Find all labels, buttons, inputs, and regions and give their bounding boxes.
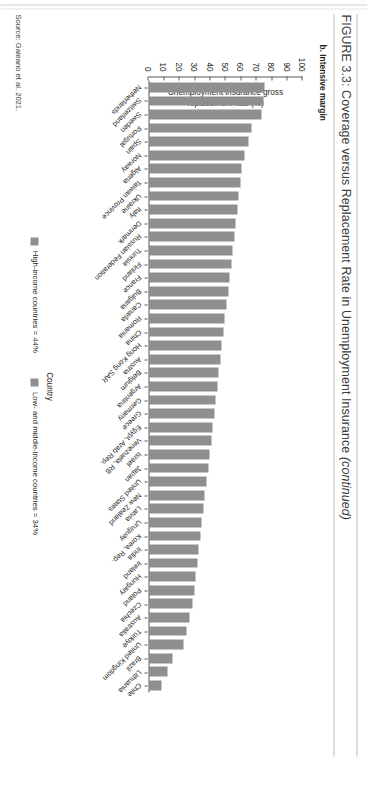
legend-swatch <box>31 378 39 386</box>
x-axis-tick <box>144 304 147 305</box>
bar <box>149 327 223 337</box>
bar-item <box>149 216 303 230</box>
bar-series <box>149 80 303 692</box>
page-edge-rule-outer <box>0 4 367 5</box>
x-axis-tick <box>144 440 147 441</box>
x-axis-tick <box>144 576 147 577</box>
bar <box>149 626 186 636</box>
x-axis-tick <box>144 400 147 401</box>
bar <box>149 666 167 676</box>
y-axis-tick-label: 80 <box>265 62 274 71</box>
bar <box>149 612 189 622</box>
figure-title-bar: FIGURE 3.3: Coverage versus Replacement … <box>333 14 357 756</box>
x-axis-tick <box>144 264 147 265</box>
bar <box>149 109 261 119</box>
legend-label: Low- and middle-income countries = 34% <box>30 391 39 534</box>
bar-item <box>149 529 303 543</box>
bar-item <box>149 624 303 638</box>
bar <box>149 449 209 459</box>
bar-item <box>149 325 303 339</box>
bar-item <box>149 311 303 325</box>
bar <box>149 299 226 309</box>
bar <box>149 191 238 201</box>
x-axis-tick <box>144 87 147 88</box>
x-axis-tick <box>144 549 147 550</box>
bar-item <box>149 284 303 298</box>
x-axis-tick <box>144 372 147 373</box>
bar-item <box>149 678 303 692</box>
bar <box>149 558 197 568</box>
bar <box>149 408 214 418</box>
bar <box>149 463 208 473</box>
legend-label: High-income countries = 44% <box>30 250 39 352</box>
bar-item <box>149 298 303 312</box>
bar <box>149 544 198 554</box>
bar <box>149 517 201 527</box>
bar <box>149 571 195 581</box>
bar <box>149 259 231 269</box>
bar-item <box>149 121 303 135</box>
x-axis-tick <box>144 141 147 142</box>
bar-item <box>149 338 303 352</box>
bar-item <box>149 420 303 434</box>
bar <box>149 531 200 541</box>
bar <box>149 163 241 173</box>
x-axis-tick <box>144 672 147 673</box>
chart-legend: High-income countries = 44%Low- and midd… <box>30 80 39 692</box>
x-axis-tick <box>144 332 147 333</box>
bar-item <box>149 270 303 284</box>
bar <box>149 476 206 486</box>
figure-page: FIGURE 3.3: Coverage versus Replacement … <box>0 0 367 810</box>
bar <box>149 177 240 187</box>
y-axis-tick-label: 10 <box>157 62 166 71</box>
bar <box>149 639 183 649</box>
bar <box>149 204 237 214</box>
x-axis-tick <box>144 182 147 183</box>
bar-item <box>149 352 303 366</box>
bar-item <box>149 569 303 583</box>
bar <box>149 680 161 690</box>
bar-item <box>149 230 303 244</box>
bar <box>149 218 235 228</box>
bar-item <box>149 637 303 651</box>
x-axis-title: Country <box>44 80 53 692</box>
bar-item <box>149 134 303 148</box>
x-axis-tick <box>144 155 147 156</box>
bar-item <box>149 556 303 570</box>
y-axis-tick-label: 30 <box>188 62 197 71</box>
bar-item <box>149 365 303 379</box>
bar-item <box>149 461 303 475</box>
x-axis-tick <box>144 563 147 564</box>
bar-item <box>149 379 303 393</box>
x-axis-tick <box>144 658 147 659</box>
x-axis-tick <box>144 617 147 618</box>
x-axis-tick <box>144 250 147 251</box>
x-axis-tick <box>144 468 147 469</box>
x-axis-tick <box>144 236 147 237</box>
y-axis-tick-label: 100 <box>296 57 305 71</box>
y-axis-tick-label: 20 <box>173 62 182 71</box>
bar-item <box>149 80 303 94</box>
bar <box>149 245 232 255</box>
bar <box>149 653 172 663</box>
bar <box>149 490 204 500</box>
figure-title-continued: (continued) <box>338 456 352 519</box>
bar <box>149 435 211 445</box>
bar-item <box>149 107 303 121</box>
bar-item <box>149 257 303 271</box>
figure-title: FIGURE 3.3: Coverage versus Replacement … <box>338 14 352 519</box>
x-axis-tick <box>144 359 147 360</box>
bar-item <box>149 474 303 488</box>
x-axis-tick <box>144 168 147 169</box>
bar-item <box>149 610 303 624</box>
x-axis-tick <box>144 223 147 224</box>
bar-item <box>149 501 303 515</box>
bar-item <box>149 447 303 461</box>
bar <box>149 598 192 608</box>
x-axis-tick <box>144 481 147 482</box>
legend-item: High-income countries = 44% <box>30 237 39 352</box>
x-axis-tick <box>144 128 147 129</box>
x-axis-tick <box>144 196 147 197</box>
figure-source: Source: Galeano et al. 2021. <box>13 14 22 111</box>
bar <box>149 381 217 391</box>
